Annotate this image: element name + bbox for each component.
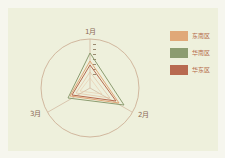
- legend-swatch: [170, 31, 188, 41]
- legend-item-huanan[interactable]: 华南区: [170, 47, 210, 58]
- legend-swatch: [170, 48, 188, 58]
- legend: 东南区 华南区 华东区: [170, 30, 210, 81]
- legend-item-huadong[interactable]: 华东区: [170, 64, 210, 75]
- axis-label-2: 2月: [138, 111, 149, 119]
- legend-swatch: [170, 65, 188, 75]
- legend-item-dongnan[interactable]: 东南区: [170, 30, 210, 41]
- legend-label: 东南区: [192, 31, 210, 40]
- axis-label-1: 1月: [85, 28, 96, 36]
- axis-label-3: 3月: [30, 110, 41, 118]
- inner-poly-2: [80, 78, 102, 94]
- legend-label: 华东区: [192, 65, 210, 74]
- legend-label: 华南区: [192, 48, 210, 57]
- series-dongnan[interactable]: [70, 61, 119, 103]
